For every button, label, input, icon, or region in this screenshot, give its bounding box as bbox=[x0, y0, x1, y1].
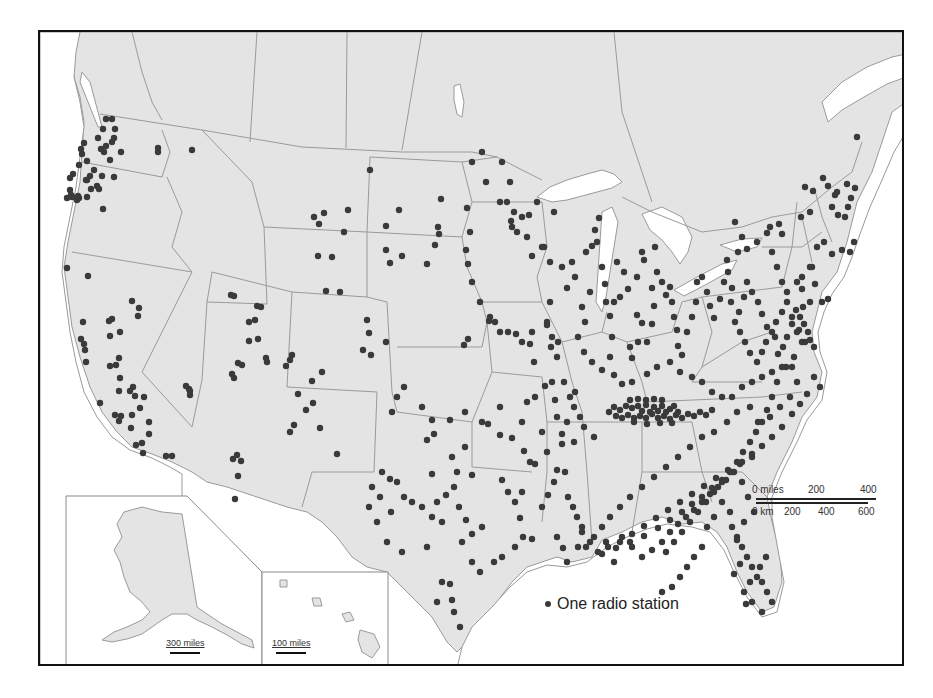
radio-station-dot bbox=[118, 149, 124, 155]
radio-station-dot bbox=[667, 517, 673, 523]
radio-station-dot bbox=[810, 188, 816, 194]
radio-station-dot bbox=[619, 415, 625, 421]
radio-station-dot bbox=[252, 317, 258, 323]
radio-station-dot bbox=[424, 544, 430, 550]
radio-station-dot bbox=[719, 499, 725, 505]
radio-station-dot bbox=[81, 140, 87, 146]
radio-station-dot bbox=[727, 509, 733, 515]
radio-station-dot bbox=[713, 475, 719, 481]
radio-station-dot bbox=[617, 407, 623, 413]
radio-station-dot bbox=[729, 524, 735, 530]
radio-station-dot bbox=[709, 485, 715, 491]
radio-station-dot bbox=[779, 424, 785, 430]
radio-station-dot bbox=[577, 414, 583, 420]
radio-station-dot bbox=[653, 515, 659, 521]
radio-station-dot bbox=[789, 314, 795, 320]
radio-station-dot bbox=[679, 415, 685, 421]
radio-station-dot bbox=[383, 339, 389, 345]
hawaii-kauai bbox=[280, 580, 287, 587]
radio-station-dot bbox=[529, 253, 535, 259]
radio-station-dot bbox=[717, 296, 723, 302]
radio-station-dot bbox=[671, 314, 677, 320]
radio-station-dot bbox=[772, 334, 778, 340]
radio-station-dot bbox=[113, 362, 119, 368]
radio-station-dot bbox=[595, 549, 601, 555]
radio-station-dot bbox=[507, 179, 513, 185]
radio-station-dot bbox=[844, 181, 850, 187]
radio-station-dot bbox=[587, 289, 593, 295]
radio-station-dot bbox=[677, 574, 683, 580]
radio-station-dot bbox=[467, 229, 473, 235]
radio-station-dot bbox=[691, 554, 697, 560]
radio-station-dot bbox=[627, 397, 633, 403]
radio-station-dot bbox=[436, 231, 442, 237]
radio-station-dot bbox=[434, 599, 440, 605]
radio-station-dot bbox=[574, 514, 580, 520]
radio-station-dot bbox=[521, 448, 527, 454]
radio-station-dot bbox=[619, 381, 625, 387]
radio-station-dot bbox=[775, 351, 781, 357]
radio-station-dot bbox=[491, 559, 497, 565]
radio-station-dot bbox=[581, 424, 587, 430]
radio-station-dot bbox=[599, 264, 605, 270]
radio-station-dot bbox=[655, 525, 661, 531]
radio-station-dot bbox=[754, 239, 760, 245]
radio-station-dot bbox=[689, 501, 695, 507]
radio-station-dot bbox=[617, 294, 623, 300]
radio-station-dot bbox=[675, 521, 681, 527]
radio-station-dot bbox=[497, 329, 503, 335]
radio-station-dot bbox=[387, 260, 393, 266]
radio-station-dot bbox=[419, 404, 425, 410]
radio-station-dot bbox=[569, 259, 575, 265]
radio-station-dot bbox=[469, 279, 475, 285]
radio-station-dot bbox=[129, 298, 135, 304]
radio-station-dot bbox=[679, 509, 685, 515]
radio-station-dot bbox=[146, 419, 152, 425]
radio-station-dot bbox=[449, 454, 455, 460]
radio-station-dot bbox=[367, 167, 373, 173]
radio-station-dot bbox=[479, 524, 485, 530]
radio-station-dot bbox=[387, 476, 393, 482]
radio-station-dot bbox=[609, 334, 615, 340]
radio-station-dot bbox=[465, 336, 471, 342]
radio-station-dot bbox=[731, 571, 737, 577]
radio-station-dot bbox=[539, 429, 545, 435]
radio-station-dot bbox=[755, 299, 761, 305]
radio-station-dot bbox=[711, 429, 717, 435]
radio-station-dot bbox=[479, 149, 485, 155]
hawaii-scale-bar bbox=[276, 652, 306, 654]
radio-station-dot bbox=[611, 372, 617, 378]
radio-station-dot bbox=[675, 343, 681, 349]
radio-station-dot bbox=[641, 257, 647, 263]
radio-station-dot bbox=[651, 474, 657, 480]
radio-station-dot bbox=[745, 494, 751, 500]
radio-station-dot bbox=[429, 514, 435, 520]
radio-station-dot bbox=[499, 477, 505, 483]
radio-station-dot bbox=[529, 329, 535, 335]
radio-station-dot bbox=[763, 339, 769, 345]
radio-station-dot bbox=[67, 187, 73, 193]
radio-station-dot bbox=[754, 574, 760, 580]
radio-station-dot bbox=[551, 209, 557, 215]
radio-station-dot bbox=[132, 393, 138, 399]
radio-station-dot bbox=[561, 379, 567, 385]
radio-station-dot bbox=[97, 400, 103, 406]
radio-station-dot bbox=[669, 299, 675, 305]
radio-station-dot bbox=[504, 199, 510, 205]
radio-station-dot bbox=[309, 378, 315, 384]
radio-station-dot bbox=[464, 205, 470, 211]
radio-station-dot bbox=[659, 403, 665, 409]
radio-station-dot bbox=[603, 539, 609, 545]
radio-station-dot bbox=[699, 544, 705, 550]
radio-station-dot bbox=[643, 397, 649, 403]
radio-station-dot bbox=[607, 354, 613, 360]
radio-station-dot bbox=[341, 229, 347, 235]
radio-station-dot bbox=[845, 204, 851, 210]
radio-station-dot bbox=[731, 469, 737, 475]
radio-station-dot bbox=[683, 514, 689, 520]
radio-station-dot bbox=[287, 429, 293, 435]
radio-station-dot bbox=[519, 489, 525, 495]
radio-station-dot bbox=[755, 419, 761, 425]
radio-station-dot bbox=[98, 146, 104, 152]
radio-station-dot bbox=[707, 491, 713, 497]
